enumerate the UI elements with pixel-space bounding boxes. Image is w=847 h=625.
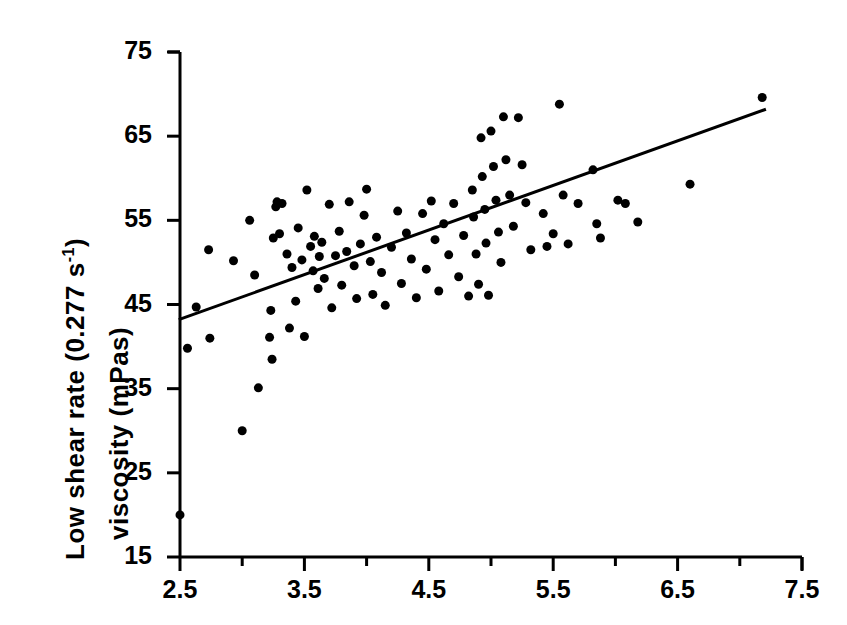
data-point — [294, 223, 303, 232]
data-point — [204, 245, 213, 254]
data-point — [589, 165, 598, 174]
data-point — [592, 219, 601, 228]
data-point — [360, 211, 369, 220]
data-point — [474, 280, 483, 289]
data-point — [542, 242, 551, 251]
x-tick-label: 3.5 — [254, 575, 354, 604]
y-tick-label: 15 — [70, 541, 152, 570]
data-point — [521, 198, 530, 207]
data-point — [633, 218, 642, 227]
data-point — [397, 279, 406, 288]
data-point — [291, 297, 300, 306]
y-tick-marks — [167, 52, 180, 557]
data-point — [468, 186, 477, 195]
data-point — [686, 180, 695, 189]
data-point — [362, 185, 371, 194]
data-point — [352, 294, 361, 303]
data-point — [434, 287, 443, 296]
data-point — [484, 291, 493, 300]
data-point — [555, 100, 564, 109]
data-point — [350, 261, 359, 270]
data-point — [431, 235, 440, 244]
data-point — [381, 301, 390, 310]
data-point — [205, 334, 214, 343]
y-tick-label: 55 — [70, 204, 152, 233]
y-tick-label: 45 — [70, 289, 152, 318]
data-point — [477, 133, 486, 142]
data-point — [176, 510, 185, 519]
data-point — [268, 355, 277, 364]
data-point — [229, 256, 238, 265]
data-point — [278, 199, 287, 208]
data-point — [345, 197, 354, 206]
data-point — [245, 216, 254, 225]
data-point — [478, 172, 487, 181]
y-tick-label: 75 — [70, 36, 152, 65]
data-point — [574, 199, 583, 208]
data-point — [317, 238, 326, 247]
data-point — [509, 222, 518, 231]
data-point — [464, 292, 473, 301]
data-point — [439, 219, 448, 228]
data-point — [366, 257, 375, 266]
data-point — [192, 303, 201, 312]
data-point — [300, 332, 309, 341]
data-point — [282, 250, 291, 259]
data-point — [320, 274, 329, 283]
data-point — [331, 251, 340, 260]
data-point — [275, 229, 284, 238]
data-point — [621, 199, 630, 208]
data-point — [482, 239, 491, 248]
data-point — [496, 258, 505, 267]
x-tick-label: 7.5 — [752, 575, 847, 604]
data-point — [302, 186, 311, 195]
data-point — [314, 284, 323, 293]
data-point — [494, 228, 503, 237]
data-point — [487, 127, 496, 136]
x-tick-label: 2.5 — [130, 575, 230, 604]
data-point — [422, 265, 431, 274]
data-point — [265, 333, 274, 342]
x-tick-label: 6.5 — [628, 575, 728, 604]
y-tick-label: 25 — [70, 457, 152, 486]
data-point — [335, 227, 344, 236]
data-point — [393, 207, 402, 216]
data-point — [444, 250, 453, 259]
data-point — [372, 233, 381, 242]
y-tick-label: 35 — [70, 373, 152, 402]
data-point — [418, 209, 427, 218]
data-point — [499, 112, 508, 121]
data-point — [454, 272, 463, 281]
data-point — [469, 212, 478, 221]
data-point — [368, 290, 377, 299]
x-tick-marks — [180, 557, 802, 571]
data-point — [491, 196, 500, 205]
data-point — [285, 324, 294, 333]
data-point — [427, 196, 436, 205]
data-point — [325, 200, 334, 209]
data-point — [183, 344, 192, 353]
data-point — [412, 293, 421, 302]
data-point — [402, 228, 411, 237]
data-point — [526, 245, 535, 254]
data-point — [549, 229, 558, 238]
data-point — [266, 306, 275, 315]
data-point — [287, 263, 296, 272]
data-point — [596, 234, 605, 243]
x-tick-label: 5.5 — [503, 575, 603, 604]
data-point — [449, 199, 458, 208]
data-point — [459, 231, 468, 240]
data-point — [501, 155, 510, 164]
data-point — [564, 239, 573, 248]
data-point — [505, 191, 514, 200]
data-points — [176, 93, 767, 519]
data-point — [306, 242, 315, 251]
data-point — [407, 255, 416, 264]
scatter-plot-figure: Low shear rate (0.277 s-1) viscosity (mP… — [0, 0, 847, 625]
data-point — [310, 232, 319, 241]
data-point — [518, 160, 527, 169]
data-point — [315, 252, 324, 261]
data-point — [480, 205, 489, 214]
data-point — [387, 243, 396, 252]
data-point — [337, 281, 346, 290]
